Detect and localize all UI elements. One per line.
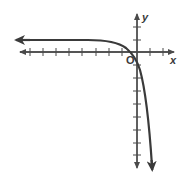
function-graph: y x O <box>0 0 188 174</box>
y-axis-label: y <box>141 11 149 23</box>
x-axis-label: x <box>169 54 177 66</box>
x-axis <box>20 48 174 56</box>
curve-down-arrow <box>152 160 153 170</box>
y-axis <box>133 14 141 168</box>
origin-label: O <box>126 54 135 66</box>
